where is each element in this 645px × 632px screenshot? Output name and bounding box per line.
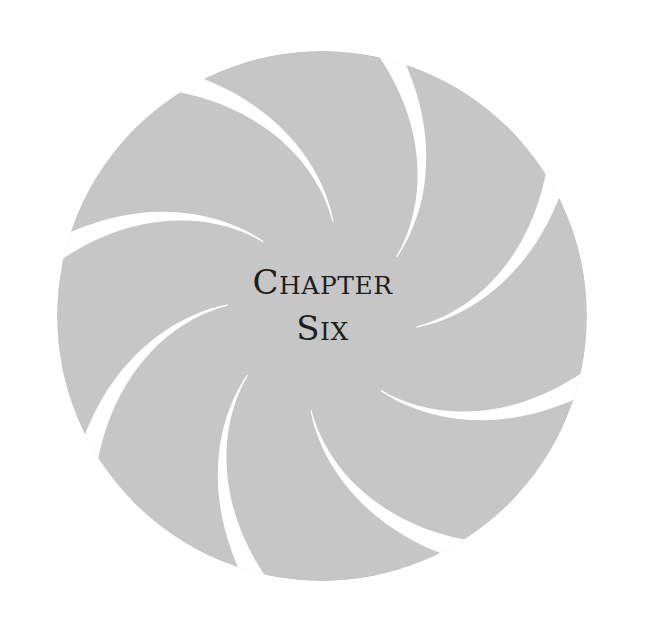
- chapter-title-page: CHAPTER SIX: [0, 0, 645, 632]
- chapter-number: SIX: [0, 308, 645, 348]
- chapter-label: CHAPTER: [0, 262, 645, 302]
